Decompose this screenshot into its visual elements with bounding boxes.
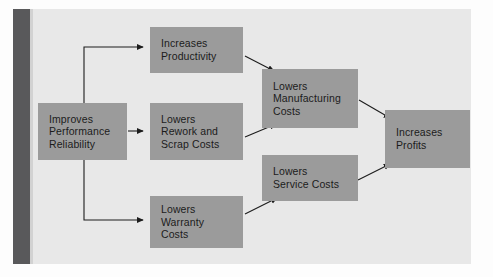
spine-edge-highlight xyxy=(30,9,33,264)
node-improves-performance-reliability[interactable]: Improves Performance Reliability xyxy=(38,103,127,160)
book-spine-bar xyxy=(13,9,30,264)
node-lowers-service-costs[interactable]: Lowers Service Costs xyxy=(262,155,358,201)
node-lowers-warranty-costs[interactable]: Lowers Warranty Costs xyxy=(150,196,243,248)
node-increases-productivity[interactable]: Increases Productivity xyxy=(150,27,243,73)
node-label: Lowers Manufacturing Costs xyxy=(262,80,347,118)
node-lowers-rework-and-scrap-costs[interactable]: Lowers Rework and Scrap Costs xyxy=(150,103,243,160)
node-label: Lowers Service Costs xyxy=(262,165,345,190)
node-label: Improves Performance Reliability xyxy=(38,113,116,151)
node-label: Increases Productivity xyxy=(150,37,222,62)
diagram-screenshot: Improves Performance Reliability Increas… xyxy=(0,0,493,277)
node-label: Lowers Rework and Scrap Costs xyxy=(150,113,225,151)
node-increases-profits[interactable]: Increases Profits xyxy=(385,110,470,168)
node-label: Increases Profits xyxy=(385,126,448,151)
node-lowers-manufacturing-costs[interactable]: Lowers Manufacturing Costs xyxy=(262,69,358,128)
node-label: Lowers Warranty Costs xyxy=(150,203,210,241)
